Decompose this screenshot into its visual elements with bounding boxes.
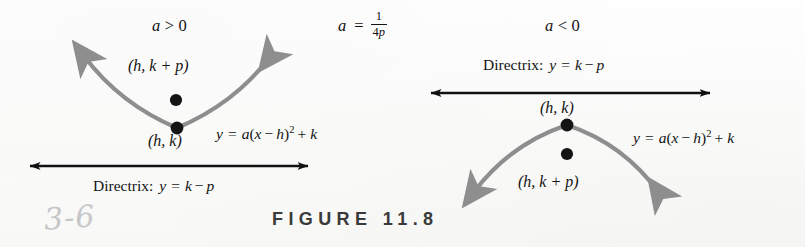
equation-right-plus: + bbox=[714, 129, 723, 146]
equation-left-plus: + bbox=[297, 125, 306, 142]
condition-right-variable: a bbox=[545, 16, 554, 35]
condition-right-value: 0 bbox=[571, 16, 580, 35]
equation-left-equals: = bbox=[228, 125, 237, 142]
condition-left-operator: > bbox=[165, 16, 175, 35]
directrix-right-p: p bbox=[597, 56, 605, 73]
condition-label-left: a>0 bbox=[152, 18, 187, 35]
equation-left-exponent: 2 bbox=[289, 124, 294, 135]
equation-right-h: h bbox=[693, 129, 701, 146]
handwritten-pencil-annotation: 3-6 bbox=[43, 198, 97, 236]
equation-right-lhs: y bbox=[633, 129, 640, 146]
equation-right-equals: = bbox=[645, 129, 654, 146]
directrix-left-y: y bbox=[159, 177, 166, 194]
focus-label-left: (h, k + p) bbox=[128, 58, 189, 74]
focus-label-right: (h, k + p) bbox=[518, 174, 579, 190]
vertex-label-left: (h, k) bbox=[148, 133, 182, 149]
denominator-variable: p bbox=[379, 25, 385, 39]
equation-left-h: h bbox=[276, 125, 284, 142]
equation-left: y=a(x−h)2+k bbox=[216, 126, 317, 142]
directrix-caption-left: Directrix:y=k−p bbox=[93, 178, 214, 194]
equation-left-minus: − bbox=[264, 125, 273, 142]
directrix-right-k: k bbox=[575, 56, 582, 73]
directrix-left-p: p bbox=[207, 177, 215, 194]
focal-parameter-relation: a = 1 4p bbox=[338, 11, 387, 41]
equation-right-exponent: 2 bbox=[706, 128, 711, 139]
condition-left-variable: a bbox=[152, 16, 161, 35]
directrix-left-minus: − bbox=[195, 177, 204, 194]
condition-label-right: a<0 bbox=[545, 18, 580, 35]
relation-variable: a bbox=[338, 16, 346, 36]
directrix-right-minus: − bbox=[585, 56, 594, 73]
vertex-point-right bbox=[561, 119, 574, 132]
equation-left-k: k bbox=[310, 125, 317, 142]
directrix-left-k: k bbox=[185, 177, 192, 194]
equation-left-x: x bbox=[255, 125, 262, 142]
directrix-right-y: y bbox=[549, 56, 556, 73]
equation-right-x: x bbox=[672, 129, 679, 146]
equation-right: y=a(x−h)2+k bbox=[633, 130, 734, 146]
directrix-right-word: Directrix: bbox=[483, 56, 543, 73]
focus-point-left bbox=[170, 94, 182, 106]
directrix-left-word: Directrix: bbox=[93, 177, 153, 194]
vertex-label-right: (h, k) bbox=[540, 100, 574, 116]
relation-equals: = bbox=[354, 16, 363, 36]
equation-right-k: k bbox=[727, 129, 734, 146]
figure-caption: FIGURE 11.8 bbox=[272, 209, 438, 230]
equation-left-lhs: y bbox=[216, 125, 223, 142]
condition-left-value: 0 bbox=[178, 16, 187, 35]
figure-canvas: a>0 (h, k + p) (h, k) y=a(x−h)2+k Direct… bbox=[0, 0, 805, 247]
directrix-caption-right: Directrix:y=k−p bbox=[483, 57, 604, 73]
fraction-numerator: 1 bbox=[374, 10, 384, 24]
directrix-right-equals: = bbox=[561, 56, 570, 73]
fraction-one-over-four-p: 1 4p bbox=[371, 10, 388, 40]
equation-right-minus: − bbox=[681, 129, 690, 146]
focus-point-right bbox=[561, 148, 573, 160]
directrix-left-equals: = bbox=[171, 177, 180, 194]
fraction-denominator: 4p bbox=[371, 25, 388, 39]
condition-right-operator: < bbox=[558, 16, 568, 35]
